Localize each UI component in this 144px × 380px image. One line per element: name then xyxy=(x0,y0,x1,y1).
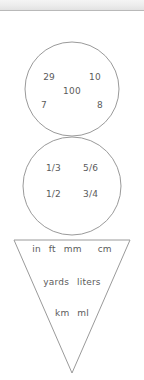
number-8: 8 xyxy=(97,100,103,110)
fraction-five-sixths: 5/6 xyxy=(83,163,98,173)
fractions-row-2: 1/23/4 xyxy=(0,190,144,199)
fraction-one-half: 1/2 xyxy=(46,189,61,199)
number-7: 7 xyxy=(41,100,47,110)
unit-ft: ft xyxy=(49,244,56,254)
worksheet-page: 2910 100 78 1/35/6 1/23/4 inftmmcm yards… xyxy=(0,0,144,380)
number-10: 10 xyxy=(89,72,101,82)
numbers-row-3: 78 xyxy=(0,101,144,110)
fraction-one-third: 1/3 xyxy=(46,163,61,173)
units-triangle xyxy=(14,240,130,373)
fractions-circle xyxy=(23,137,121,235)
number-29: 29 xyxy=(43,72,55,82)
unit-ml: ml xyxy=(77,308,89,318)
unit-liters: liters xyxy=(77,277,101,287)
numbers-row-2: 100 xyxy=(0,87,144,96)
numbers-row-1: 2910 xyxy=(0,73,144,82)
fraction-three-quarters: 3/4 xyxy=(83,189,98,199)
unit-cm: cm xyxy=(98,244,112,254)
fractions-row-1: 1/35/6 xyxy=(0,164,144,173)
units-row-3: kmml xyxy=(0,309,144,318)
units-row-2: yardsliters xyxy=(0,278,144,287)
number-100: 100 xyxy=(63,86,81,96)
unit-in: in xyxy=(32,244,41,254)
unit-mm: mm xyxy=(64,244,82,254)
unit-yards: yards xyxy=(43,277,69,287)
units-row-1: inftmmcm xyxy=(0,245,144,254)
unit-km: km xyxy=(55,308,69,318)
